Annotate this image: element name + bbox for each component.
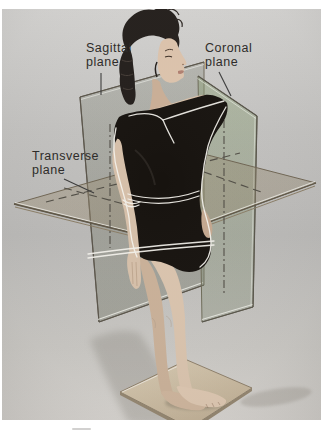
- figure-page: Sagittal plane Coronal plane Transverse …: [0, 0, 331, 435]
- photo-area: [2, 9, 321, 420]
- cropped-caption-mark: [72, 428, 91, 430]
- coronal-plane-label: Coronal plane: [205, 41, 252, 69]
- transverse-plane-label: Transverse plane: [32, 149, 99, 177]
- coronal-label-line1: Coronal: [205, 41, 252, 55]
- vignette-overlay: [2, 9, 321, 420]
- sagittal-label-line2: plane: [86, 55, 132, 69]
- transverse-label-line2: plane: [32, 163, 99, 177]
- transverse-label-line1: Transverse: [32, 149, 99, 163]
- sagittal-plane-label: Sagittal plane: [86, 41, 132, 69]
- figure-scene: [2, 9, 321, 420]
- sagittal-label-line1: Sagittal: [86, 41, 132, 55]
- coronal-label-line2: plane: [205, 55, 252, 69]
